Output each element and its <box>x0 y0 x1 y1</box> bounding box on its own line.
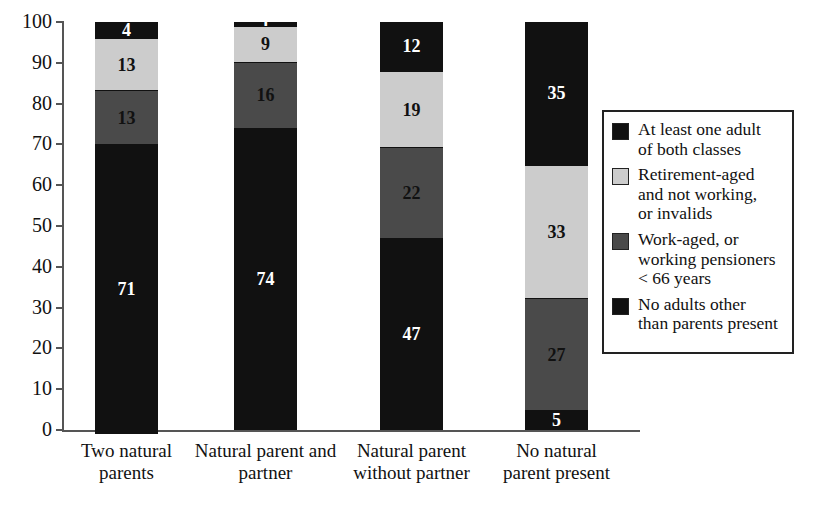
y-tick-label: 90 <box>2 52 52 72</box>
stacked-bar: 12192247 <box>380 22 443 430</box>
bar-segment-value: 74 <box>257 270 275 288</box>
legend-label: Work-aged, or working pensioners < 66 ye… <box>638 230 776 289</box>
legend-label: No adults other than parents present <box>638 295 778 334</box>
bar-segment-value: 27 <box>548 346 566 364</box>
legend-swatch-icon <box>612 233 629 250</box>
bar-segment: 13 <box>95 38 158 91</box>
legend-item[interactable]: Retirement-aged and not working, or inva… <box>612 165 786 224</box>
x-axis-label-line: partner <box>186 462 346 484</box>
bar-segment: 33 <box>525 165 588 300</box>
legend-item[interactable]: No adults other than parents present <box>612 295 786 334</box>
bar-segment: 5 <box>525 410 588 430</box>
y-tick-label: 80 <box>2 93 52 113</box>
x-axis-label: Natural parent andpartner <box>186 440 346 484</box>
bar-segment-value: 9 <box>261 35 270 53</box>
bar-segment-value: 47 <box>403 325 421 343</box>
y-tick-label: 50 <box>2 215 52 235</box>
plot-area: 4131371191674121922473533275 <box>62 22 640 430</box>
bar-segment: 9 <box>234 26 297 63</box>
legend: At least one adult of both classesRetire… <box>602 110 794 354</box>
bar-segment: 22 <box>380 148 443 238</box>
bar-segment-value: 22 <box>403 184 421 202</box>
stacked-bar: 191674 <box>234 22 297 430</box>
y-axis-labels: 1009080706050403020100 <box>0 0 52 518</box>
stacked-bar: 3533275 <box>525 22 588 430</box>
legend-item[interactable]: At least one adult of both classes <box>612 120 786 159</box>
bar-segment-value: 12 <box>403 37 421 55</box>
bar-segment: 4 <box>95 22 158 38</box>
bar-segment: 19 <box>380 71 443 149</box>
bar-segment-value: 35 <box>548 84 566 102</box>
legend-swatch-icon <box>612 123 629 140</box>
x-axis-label-line: parent present <box>477 462 637 484</box>
bar-segment: 12 <box>380 22 443 71</box>
x-axis-label-line: Natural parent and <box>186 440 346 462</box>
bar-segment-value: 33 <box>548 223 566 241</box>
legend-swatch-icon <box>612 168 629 185</box>
bar-segment-value: 16 <box>257 86 275 104</box>
y-tick-label: 40 <box>2 256 52 276</box>
x-axis-label-line: Two natural <box>47 440 207 462</box>
x-axis-label: Natural parentwithout partner <box>332 440 492 484</box>
x-axis-label-line: parents <box>47 462 207 484</box>
bar-segment-value: 13 <box>118 109 136 127</box>
y-tick-label: 10 <box>2 378 52 398</box>
y-tick-label: 60 <box>2 174 52 194</box>
bar-segment: 71 <box>95 144 158 434</box>
bar-segment-value: 71 <box>118 280 136 298</box>
legend-swatch-icon <box>612 298 629 315</box>
bar-segment-value: 5 <box>552 411 561 429</box>
bar-segment-value: 19 <box>403 101 421 119</box>
x-axis-label-line: No natural <box>477 440 637 462</box>
legend-label: At least one adult of both classes <box>638 120 761 159</box>
legend-label: Retirement-aged and not working, or inva… <box>638 165 757 224</box>
bar-segment: 27 <box>525 299 588 409</box>
bar-segment-value: 4 <box>122 21 131 39</box>
bar-segment: 16 <box>234 63 297 128</box>
y-tick-label: 100 <box>2 11 52 31</box>
y-tick-label: 0 <box>2 419 52 439</box>
x-axis-label: Two naturalparents <box>47 440 207 484</box>
legend-item[interactable]: Work-aged, or working pensioners < 66 ye… <box>612 230 786 289</box>
chart-figure: 1009080706050403020100 41313711916741219… <box>0 0 821 518</box>
y-tick-label: 30 <box>2 297 52 317</box>
y-tick-label: 20 <box>2 337 52 357</box>
bar-segment: 13 <box>95 91 158 144</box>
x-axis-label: No naturalparent present <box>477 440 637 484</box>
y-tick-label: 70 <box>2 133 52 153</box>
bar-segment: 35 <box>525 22 588 165</box>
bar-segment: 74 <box>234 128 297 430</box>
bar-segment: 47 <box>380 238 443 430</box>
x-axis-label-line: without partner <box>332 462 492 484</box>
x-axis-label-line: Natural parent <box>332 440 492 462</box>
stacked-bar: 4131371 <box>95 22 158 430</box>
bar-segment-value: 13 <box>118 56 136 74</box>
